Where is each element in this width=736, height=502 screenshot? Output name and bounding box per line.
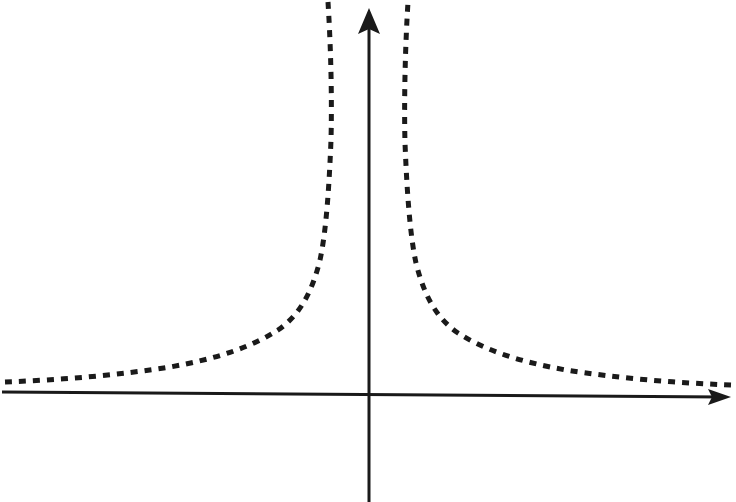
plot-canvas [0, 0, 736, 502]
figure-root: Dashed curve with two symmetric branches… [0, 0, 736, 502]
